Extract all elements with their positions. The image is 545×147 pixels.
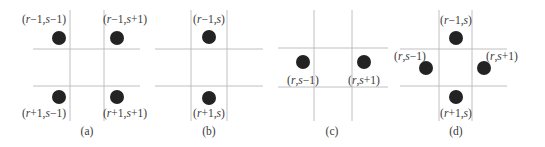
pixel-dot (449, 90, 463, 104)
panel-b: (r−1,s)(r+1,s)(b) (155, 10, 263, 138)
neighborhood-diagram: (r−1,s−1)(r−1,s+1)(r+1,s−1)(r+1,s+1)(a) … (0, 0, 545, 147)
coordinate-label: (r−1,s) (193, 13, 225, 26)
coordinate-label: (r,s−1) (394, 50, 426, 63)
coordinate-label: (r,s+1) (486, 50, 518, 63)
panel-caption: (b) (202, 125, 216, 138)
coordinate-label: (r,s−1) (287, 74, 319, 87)
coordinate-label: (r+1,s) (193, 107, 225, 120)
pixel-dot (52, 90, 66, 104)
pixel-dot (52, 31, 66, 45)
pixel-dot (296, 55, 310, 69)
panel-d: (r−1,s)(r,s−1)(r,s+1)(r+1,s)(d) (394, 10, 518, 138)
coordinate-label: (r−1,s) (440, 14, 472, 27)
panel-c: (r,s−1)(r,s+1)(c) (278, 10, 388, 138)
coordinate-label: (r−1,s−1) (22, 13, 66, 26)
coordinate-label: (r−1,s+1) (103, 13, 147, 26)
coordinate-label: (r+1,s) (440, 107, 472, 120)
pixel-dot (449, 31, 463, 45)
panel-caption: (d) (449, 125, 463, 138)
panel-caption: (a) (81, 125, 94, 138)
pixel-dot (110, 31, 124, 45)
coordinate-label: (r+1,s+1) (103, 107, 147, 120)
pixel-dot (202, 91, 216, 105)
pixel-dot (202, 30, 216, 44)
pixel-dot (477, 61, 491, 75)
pixel-dot (110, 90, 124, 104)
panel-a: (r−1,s−1)(r−1,s+1)(r+1,s−1)(r+1,s+1)(a) (22, 10, 147, 138)
coordinate-label: (r,s+1) (348, 74, 380, 87)
panel-caption: (c) (326, 125, 339, 138)
pixel-dot (357, 55, 371, 69)
coordinate-label: (r+1,s−1) (22, 107, 66, 120)
pixel-dot (419, 61, 433, 75)
